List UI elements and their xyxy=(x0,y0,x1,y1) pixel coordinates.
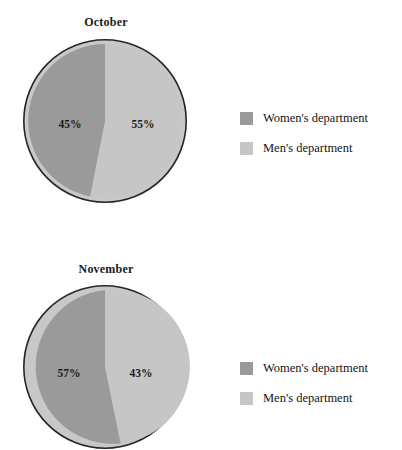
legend-swatch-men-icon xyxy=(240,392,253,405)
pie-label-men-november: 43% xyxy=(130,367,153,379)
legend-swatch-women-icon xyxy=(240,112,253,125)
chart-title-november: November xyxy=(0,262,212,277)
legend-swatch-women-icon xyxy=(240,362,253,375)
pie-chart-october: October 45% 55% Women's department Men's… xyxy=(0,0,402,222)
legend-october: Women's department Men's department xyxy=(240,103,368,163)
pie-label-women-november: 57% xyxy=(58,367,81,379)
pie-graphic-november: 57% 43% xyxy=(22,284,188,450)
legend-item-women-november: Women's department xyxy=(240,353,368,383)
legend-november: Women's department Men's department xyxy=(240,353,368,413)
legend-item-men-november: Men's department xyxy=(240,383,368,413)
legend-item-women-october: Women's department xyxy=(240,103,368,133)
legend-label-women: Women's department xyxy=(263,112,368,125)
pie-graphic-october: 45% 55% xyxy=(22,38,188,204)
legend-label-men: Men's department xyxy=(263,142,352,155)
legend-swatch-men-icon xyxy=(240,142,253,155)
legend-label-men: Men's department xyxy=(263,392,352,405)
legend-item-men-october: Men's department xyxy=(240,133,368,163)
pie-label-women-october: 45% xyxy=(59,118,82,130)
chart-title-october: October xyxy=(0,15,212,30)
legend-label-women: Women's department xyxy=(263,362,368,375)
pie-label-men-october: 55% xyxy=(132,118,155,130)
